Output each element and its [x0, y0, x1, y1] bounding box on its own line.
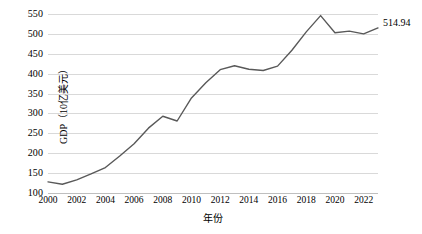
y-tick-label-400: 400 — [28, 69, 43, 79]
y-tick-label-300: 300 — [28, 108, 43, 118]
x-tick-label-2002: 2002 — [67, 196, 86, 206]
x-tick-label-2018: 2018 — [297, 196, 316, 206]
gridline-100 — [48, 193, 378, 194]
x-tick-label-2012: 2012 — [211, 196, 230, 206]
gdp-series-line — [48, 16, 378, 185]
series-layer — [48, 14, 378, 193]
x-axis-title: 年份 — [48, 210, 378, 225]
y-tick-label-350: 350 — [28, 89, 43, 99]
x-tick-label-2016: 2016 — [268, 196, 287, 206]
y-tick-label-150: 150 — [28, 168, 43, 178]
x-tick-label-2006: 2006 — [125, 196, 144, 206]
gdp-line-chart: 100150200250300350400450500550 200020022… — [0, 0, 422, 234]
x-tick-label-2020: 2020 — [325, 196, 344, 206]
x-tick-label-2008: 2008 — [153, 196, 172, 206]
y-axis-title: GDP（10亿美元） — [55, 34, 70, 174]
end-value-label: 514.94 — [383, 18, 411, 28]
x-tick-label-2010: 2010 — [182, 196, 201, 206]
x-tick-label-2022: 2022 — [354, 196, 373, 206]
plot-area: GDP（10亿美元） — [48, 14, 378, 193]
x-tick-label-2004: 2004 — [96, 196, 115, 206]
y-tick-label-250: 250 — [28, 128, 43, 138]
y-tick-label-500: 500 — [28, 29, 43, 39]
y-tick-label-200: 200 — [28, 148, 43, 158]
x-tick-label-2014: 2014 — [239, 196, 258, 206]
x-tick-label-2000: 2000 — [39, 196, 58, 206]
y-tick-label-550: 550 — [28, 9, 43, 19]
y-tick-label-450: 450 — [28, 49, 43, 59]
